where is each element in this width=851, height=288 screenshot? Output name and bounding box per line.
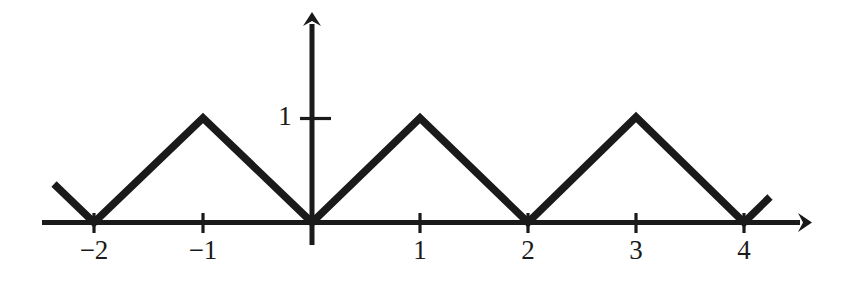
x-tick-label-3: 3 xyxy=(629,235,643,265)
y-tick-label-1: 1 xyxy=(278,101,292,131)
x-tick-label-2: 2 xyxy=(521,235,535,265)
x-tick-label--2: −2 xyxy=(80,235,109,265)
x-tick-label--1: −1 xyxy=(189,235,218,265)
triangle-wave-curve xyxy=(54,117,770,223)
x-tick-label-4: 4 xyxy=(737,235,751,265)
triangle-wave-plot: −2 −1 1 2 3 4 1 xyxy=(0,0,851,288)
x-axis-arrow-icon xyxy=(798,213,812,232)
curve-group xyxy=(54,117,770,223)
y-axis-arrow-icon xyxy=(303,12,321,26)
x-tick-label-1: 1 xyxy=(413,235,427,265)
figure-root: −2 −1 1 2 3 4 1 xyxy=(0,0,851,288)
